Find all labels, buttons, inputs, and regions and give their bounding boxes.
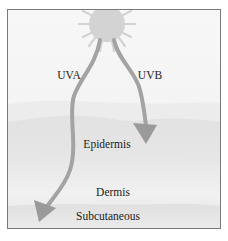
diagram-frame: UVA UVB Epidermis Dermis Subcutaneous xyxy=(7,9,221,229)
subcutaneous-label: Subcutaneous xyxy=(76,210,140,222)
uva-label: UVA xyxy=(57,69,80,81)
epidermis-label: Epidermis xyxy=(83,138,130,150)
dermis-label: Dermis xyxy=(96,186,130,198)
uvb-label: UVB xyxy=(138,69,162,81)
